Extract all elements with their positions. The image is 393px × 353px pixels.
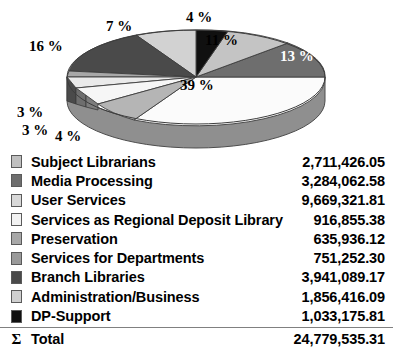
legend-item-label: Subject Librarians bbox=[31, 154, 302, 170]
legend-color-swatch bbox=[11, 271, 22, 284]
legend-total-label: Total bbox=[31, 331, 294, 347]
legend-item-value: 751,252.30 bbox=[313, 250, 385, 266]
legend-color-swatch bbox=[11, 310, 22, 323]
legend-item-label: Preservation bbox=[31, 231, 313, 247]
legend-item-label: Media Processing bbox=[31, 173, 302, 189]
legend-row: Subject Librarians2,711,426.05 bbox=[0, 152, 393, 171]
legend-item-label: User Services bbox=[31, 192, 302, 208]
legend-color-swatch bbox=[11, 232, 22, 245]
legend-item-value: 1,033,175.81 bbox=[302, 308, 385, 324]
legend-item-value: 1,856,416.09 bbox=[302, 289, 385, 305]
chart-legend: Subject Librarians2,711,426.05Media Proc… bbox=[0, 152, 393, 349]
legend-color-swatch bbox=[11, 155, 22, 168]
pie-percent-label: 13 % bbox=[280, 49, 314, 64]
legend-color-swatch bbox=[11, 290, 22, 303]
legend-item-value: 3,941,089.17 bbox=[302, 269, 385, 285]
legend-item-value: 2,711,426.05 bbox=[302, 154, 385, 170]
legend-color-swatch bbox=[11, 174, 22, 187]
legend-row-list: Subject Librarians2,711,426.05Media Proc… bbox=[0, 152, 393, 326]
pie-percent-label: 39 % bbox=[180, 78, 214, 93]
pie-percent-label: 11 % bbox=[205, 33, 238, 48]
pie-percent-label: 4 % bbox=[186, 10, 212, 25]
legend-item-label: DP-Support bbox=[31, 308, 302, 324]
legend-row: Preservation635,936.12 bbox=[0, 229, 393, 248]
legend-item-value: 9,669,321.81 bbox=[302, 192, 385, 208]
legend-item-value: 916,855.38 bbox=[313, 212, 385, 228]
legend-item-value: 3,284,062.58 bbox=[302, 173, 385, 189]
legend-color-swatch bbox=[11, 252, 22, 265]
legend-item-label: Branch Libraries bbox=[31, 269, 302, 285]
legend-total-value: 24,779,535.31 bbox=[294, 331, 385, 347]
legend-row: Services for Departments751,252.30 bbox=[0, 248, 393, 267]
legend-item-label: Administration/Business bbox=[31, 289, 302, 305]
legend-color-swatch bbox=[11, 194, 22, 207]
legend-item-label: Services as Regional Deposit Library bbox=[31, 212, 313, 228]
legend-row: Administration/Business1,856,416.09 bbox=[0, 287, 393, 306]
pie-percent-label: 3 % bbox=[17, 105, 43, 120]
pie-chart: 4 %7 %11 %16 %13 %39 %3 %3 %4 % bbox=[0, 0, 393, 152]
legend-row: User Services9,669,321.81 bbox=[0, 191, 393, 210]
sigma-icon: Σ bbox=[11, 332, 22, 347]
legend-row: Services as Regional Deposit Library916,… bbox=[0, 210, 393, 229]
legend-color-swatch bbox=[11, 213, 22, 226]
legend-row: DP-Support1,033,175.81 bbox=[0, 306, 393, 325]
legend-total-row: Σ Total 24,779,535.31 bbox=[0, 327, 393, 349]
legend-row: Branch Libraries3,941,089.17 bbox=[0, 268, 393, 287]
pie-percent-label: 7 % bbox=[106, 19, 132, 34]
legend-item-label: Services for Departments bbox=[31, 250, 313, 266]
legend-row: Media Processing3,284,062.58 bbox=[0, 171, 393, 190]
pie-percent-label: 3 % bbox=[22, 123, 48, 138]
legend-item-value: 635,936.12 bbox=[313, 231, 385, 247]
pie-percent-label: 4 % bbox=[55, 129, 81, 144]
pie-percent-label: 16 % bbox=[29, 39, 63, 54]
